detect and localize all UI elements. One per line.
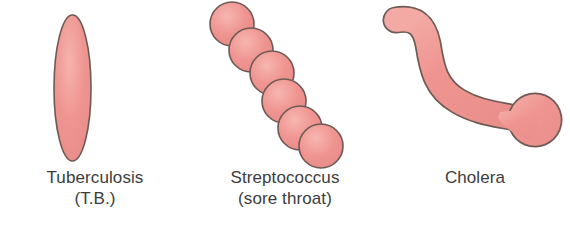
panel-cholera: Cholera <box>380 0 570 226</box>
vibrio-comma-shape <box>396 19 563 147</box>
bacillus-rod-shape <box>54 15 91 161</box>
bacteria-shapes-figure: Tuberculosis (T.B.) <box>0 0 570 226</box>
sublabel-tuberculosis: (T.B.) <box>0 188 190 209</box>
coccus-chain-shape <box>210 2 343 168</box>
caption-cholera: Cholera <box>380 167 570 188</box>
panel-tuberculosis: Tuberculosis (T.B.) <box>0 0 190 226</box>
cholera-illustration <box>380 0 570 170</box>
caption-tuberculosis: Tuberculosis (T.B.) <box>0 167 190 209</box>
tuberculosis-illustration <box>0 0 190 170</box>
panel-streptococcus: Streptococcus (sore throat) <box>190 0 380 226</box>
label-streptococcus: Streptococcus <box>190 167 380 188</box>
streptococcus-illustration <box>190 0 380 170</box>
caption-streptococcus: Streptococcus (sore throat) <box>190 167 380 209</box>
label-tuberculosis: Tuberculosis <box>0 167 190 188</box>
sublabel-streptococcus: (sore throat) <box>190 188 380 209</box>
label-cholera: Cholera <box>380 167 570 188</box>
